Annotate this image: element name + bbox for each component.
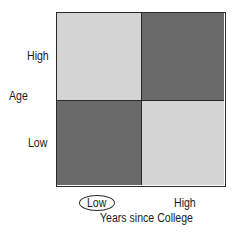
x-level-high: High (174, 196, 196, 210)
y-axis-title: Age (9, 89, 28, 103)
x-axis-title: Years since College (100, 211, 193, 225)
cell-high-age-low-years (57, 13, 141, 100)
x-level-low: Low (87, 196, 106, 210)
cell-low-age-high-years (141, 100, 224, 185)
cell-high-age-high-years (141, 13, 224, 100)
y-level-high: High (27, 49, 49, 63)
quadrant-grid (56, 12, 226, 187)
cell-low-age-low-years (57, 100, 141, 185)
y-level-low: Low (28, 136, 47, 150)
